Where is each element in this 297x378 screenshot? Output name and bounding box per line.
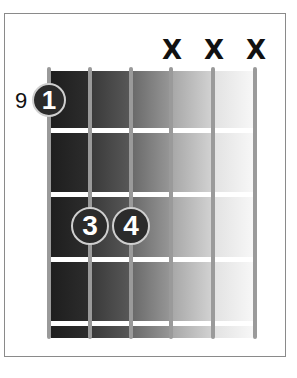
muted-string-5-x-icon: X	[202, 38, 226, 62]
fretboard-column-4	[173, 71, 214, 338]
fret-line-3	[51, 257, 253, 262]
cropped-caption	[0, 369, 297, 378]
finger-marker-4: 4	[112, 207, 150, 245]
fretboard	[51, 71, 253, 338]
fret-line-2	[51, 192, 253, 197]
muted-string-6-x-icon: X	[244, 38, 268, 62]
string-5	[211, 67, 215, 339]
finger-marker-1: 1	[32, 83, 66, 117]
fret-line-4	[51, 321, 253, 326]
starting-fret-label: 9	[15, 88, 27, 114]
string-3	[129, 67, 133, 339]
fretboard-column-5	[214, 71, 253, 338]
fretboard-column-2	[92, 71, 133, 338]
string-6	[253, 67, 257, 339]
muted-string-4-x-icon: X	[160, 38, 184, 62]
string-2	[88, 67, 92, 339]
fret-line-1	[51, 128, 253, 133]
string-4	[169, 67, 173, 339]
finger-marker-3: 3	[71, 207, 109, 245]
fretboard-column-3	[133, 71, 173, 338]
